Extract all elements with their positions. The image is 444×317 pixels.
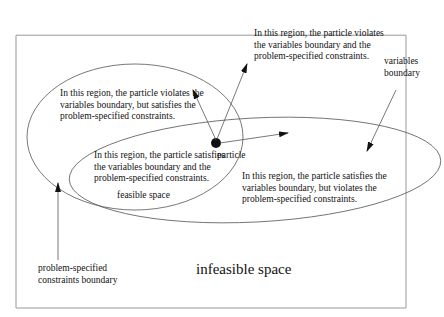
arrow-to-right-region bbox=[220, 133, 288, 143]
top-region-label: In this region, the particle violates th… bbox=[254, 28, 384, 63]
particle-label: particle bbox=[217, 150, 245, 162]
problem-boundary-label: problem-specified constraints boundary bbox=[38, 263, 117, 286]
right-region-label: In this region, the particle satisfies t… bbox=[242, 171, 387, 206]
infeasible-space-label: infeasible space bbox=[196, 261, 291, 277]
feasible-space-label: feasible space bbox=[117, 190, 170, 202]
variables-boundary-label: variables boundary bbox=[384, 56, 420, 79]
problem-constraints-boundary-ellipse bbox=[27, 64, 243, 210]
arrow-variables-boundary bbox=[367, 90, 396, 151]
center-region-label: In this region, the particle satisfies t… bbox=[94, 150, 225, 185]
left-region-label: In this region, the particle violates th… bbox=[60, 88, 204, 123]
